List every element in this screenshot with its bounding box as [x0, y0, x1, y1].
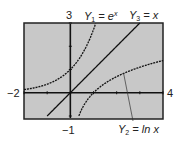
xmin-label: −2 [7, 88, 20, 99]
y1-legend: Y1 = ex [84, 10, 117, 23]
ymax-label: 3 [66, 10, 72, 21]
y2-legend: Y2 = ln x [118, 124, 159, 136]
y3-legend: Y3 = x [129, 10, 158, 22]
ymin-label: −1 [62, 125, 75, 136]
xmax-label: 4 [167, 88, 173, 99]
screen-frame [24, 23, 163, 119]
